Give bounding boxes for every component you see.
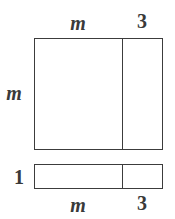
large-rect-width-m-label: m <box>70 13 86 33</box>
small-rect-height-1-label: 1 <box>14 167 24 187</box>
small-rectangle <box>34 164 163 189</box>
area-model-diagram: m 3 m 1 m 3 <box>0 0 175 219</box>
small-rectangle-divider <box>122 164 123 189</box>
small-rect-width-m-label: m <box>70 195 86 215</box>
large-rectangle-divider <box>122 38 123 150</box>
large-rect-width-3-label: 3 <box>137 11 147 31</box>
large-rect-height-m-label: m <box>6 83 22 103</box>
large-rectangle <box>34 38 163 150</box>
small-rect-width-3-label: 3 <box>137 193 147 213</box>
